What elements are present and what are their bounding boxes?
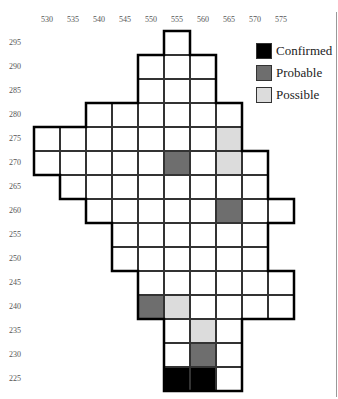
grid-cell-535-270 [60, 151, 86, 175]
grid-cell-555-265 [164, 175, 190, 199]
legend: Confirmed Probable Possible [256, 40, 332, 106]
grid-cell-550-285 [138, 79, 164, 103]
grid-cell-565-275 [216, 127, 242, 151]
grid-cell-535-275 [60, 127, 86, 151]
confirmed-swatch-icon [256, 43, 272, 59]
grid-cell-575-260 [268, 199, 294, 223]
grid-cell-560-275 [190, 127, 216, 151]
grid-cell-565-260 [216, 199, 242, 223]
legend-item-confirmed: Confirmed [256, 40, 332, 62]
grid-cell-555-230 [164, 343, 190, 367]
grid-cell-565-245 [216, 271, 242, 295]
grid-cell-535-265 [60, 175, 86, 199]
grid-cell-540-270 [86, 151, 112, 175]
grid-cell-555-270 [164, 151, 190, 175]
grid-cell-545-275 [112, 127, 138, 151]
grid-cell-545-270 [112, 151, 138, 175]
grid-cell-540-275 [86, 127, 112, 151]
grid-cell-550-270 [138, 151, 164, 175]
grid-cell-530-270 [34, 151, 60, 175]
legend-label: Probable [276, 65, 322, 81]
grid-cell-565-230 [216, 343, 242, 367]
grid-cell-565-255 [216, 223, 242, 247]
grid-cell-555-295 [164, 31, 190, 55]
grid-cell-560-240 [190, 295, 216, 319]
legend-label: Confirmed [276, 43, 332, 59]
grid-cell-570-255 [242, 223, 268, 247]
grid-cell-550-290 [138, 55, 164, 79]
grid-cell-530-275 [34, 127, 60, 151]
grid-cell-555-255 [164, 223, 190, 247]
grid-cell-550-265 [138, 175, 164, 199]
grid-cell-565-280 [216, 103, 242, 127]
grid-cell-560-285 [190, 79, 216, 103]
grid-cell-545-280 [112, 103, 138, 127]
grid-cell-555-285 [164, 79, 190, 103]
grid-cell-570-250 [242, 247, 268, 271]
grid-cell-545-250 [112, 247, 138, 271]
grid-cell-550-250 [138, 247, 164, 271]
grid-cell-570-270 [242, 151, 268, 175]
grid-cell-570-260 [242, 199, 268, 223]
grid-cell-550-255 [138, 223, 164, 247]
grid-cell-570-240 [242, 295, 268, 319]
grid-cell-570-265 [242, 175, 268, 199]
grid-cell-560-245 [190, 271, 216, 295]
right-border-line [336, 12, 337, 397]
grid-cell-565-235 [216, 319, 242, 343]
grid-cell-560-260 [190, 199, 216, 223]
grid-cell-555-250 [164, 247, 190, 271]
grid-cell-575-245 [268, 271, 294, 295]
grid-cell-565-240 [216, 295, 242, 319]
grid-cell-560-255 [190, 223, 216, 247]
grid-cell-555-260 [164, 199, 190, 223]
grid-cell-550-245 [138, 271, 164, 295]
grid-cell-550-275 [138, 127, 164, 151]
grid-cell-560-235 [190, 319, 216, 343]
grid-cell-555-280 [164, 103, 190, 127]
grid-cell-565-225 [216, 367, 242, 391]
probable-swatch-icon [256, 65, 272, 81]
grid-cell-545-260 [112, 199, 138, 223]
grid-cell-555-235 [164, 319, 190, 343]
grid-cell-550-260 [138, 199, 164, 223]
grid-cell-550-240 [138, 295, 164, 319]
legend-item-probable: Probable [256, 62, 332, 84]
grid-cell-560-230 [190, 343, 216, 367]
grid-cell-565-270 [216, 151, 242, 175]
grid-cell-560-280 [190, 103, 216, 127]
grid-cell-545-255 [112, 223, 138, 247]
grid-cell-560-290 [190, 55, 216, 79]
grid-cell-555-245 [164, 271, 190, 295]
grid-cell-555-225 [164, 367, 190, 391]
grid-cell-555-290 [164, 55, 190, 79]
grid-cell-555-275 [164, 127, 190, 151]
grid-cell-565-250 [216, 247, 242, 271]
grid-cell-555-240 [164, 295, 190, 319]
grid-cell-575-240 [268, 295, 294, 319]
grid-cell-550-280 [138, 103, 164, 127]
grid-cell-545-265 [112, 175, 138, 199]
grid-cell-540-280 [86, 103, 112, 127]
legend-item-possible: Possible [256, 84, 332, 106]
legend-label: Possible [276, 87, 319, 103]
grid-cell-560-225 [190, 367, 216, 391]
grid-cell-560-265 [190, 175, 216, 199]
grid-cell-540-260 [86, 199, 112, 223]
grid-cell-565-265 [216, 175, 242, 199]
possible-swatch-icon [256, 87, 272, 103]
grid-cell-570-245 [242, 271, 268, 295]
grid-cell-560-270 [190, 151, 216, 175]
grid-cell-540-265 [86, 175, 112, 199]
grid-cell-560-250 [190, 247, 216, 271]
